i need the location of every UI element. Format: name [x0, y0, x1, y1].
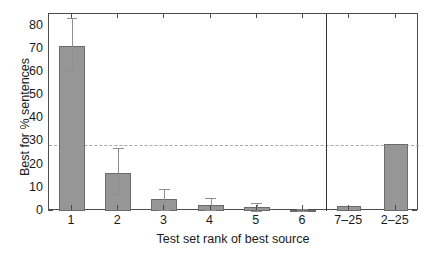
y-axis-tick-label: 10 — [17, 180, 43, 194]
error-bar-cap-lower — [67, 71, 78, 72]
x-axis-tick-mark — [256, 205, 257, 210]
reference-line — [49, 145, 419, 146]
error-bar-cap-lower — [113, 194, 124, 195]
x-axis-tick-label: 2–25 — [381, 213, 409, 227]
error-bar-cap-lower — [251, 211, 262, 212]
y-axis-tick-mark-right — [412, 210, 417, 211]
error-bar-cap-upper — [251, 203, 262, 204]
error-bar-cap-lower — [159, 210, 170, 211]
x-axis-tick-mark-top — [210, 13, 211, 18]
error-bar-cap-lower — [297, 211, 308, 212]
error-bar-cap-upper — [205, 198, 216, 199]
error-bar-cap-upper — [113, 148, 124, 149]
x-axis-tick-mark — [395, 205, 396, 210]
x-axis-tick-mark-top — [302, 13, 303, 18]
error-bar-line — [164, 189, 165, 210]
x-axis-tick-mark — [348, 205, 349, 210]
error-bar-line — [72, 18, 73, 71]
x-axis-tick-mark-top — [395, 13, 396, 18]
bar-chart-figure: Best for % sentences Test set rank of be… — [0, 0, 435, 256]
y-axis-tick-label: 20 — [17, 157, 43, 171]
y-axis-tick-label: 80 — [17, 18, 43, 32]
x-axis-tick-label: 6 — [298, 213, 305, 227]
x-axis-tick-mark — [117, 205, 118, 210]
y-axis-tick-label: 70 — [17, 41, 43, 55]
error-bar-line — [118, 148, 119, 194]
error-bar-line — [257, 203, 258, 210]
y-axis-tick-label: 0 — [17, 203, 43, 217]
error-bar-line — [211, 198, 212, 210]
y-axis-tick-label: 40 — [17, 110, 43, 124]
y-axis-tick-mark — [48, 210, 53, 211]
error-bar-cap-lower — [205, 210, 216, 211]
error-bar-cap-upper — [297, 209, 308, 210]
x-axis-tick-mark — [163, 205, 164, 210]
bar — [384, 144, 408, 211]
plot-area — [48, 13, 418, 210]
error-bar-cap-upper — [159, 189, 170, 190]
x-axis-tick-mark-top — [117, 13, 118, 18]
x-axis-tick-mark — [71, 205, 72, 210]
error-bar-cap-upper — [67, 18, 78, 19]
x-axis-tick-mark-top — [71, 13, 72, 18]
x-axis-tick-label: 4 — [206, 213, 213, 227]
y-axis-tick-label: 30 — [17, 133, 43, 147]
x-axis-tick-label: 1 — [68, 213, 75, 227]
x-axis-tick-label: 2 — [114, 213, 121, 227]
x-axis-tick-mark — [302, 205, 303, 210]
x-axis-title: Test set rank of best source — [48, 232, 418, 246]
panel-divider — [326, 14, 327, 211]
x-axis-tick-mark-top — [348, 13, 349, 18]
x-axis-tick-label: 7–25 — [334, 213, 362, 227]
x-axis-tick-label: 5 — [252, 213, 259, 227]
x-axis-tick-mark — [210, 205, 211, 210]
x-axis-tick-mark-top — [256, 13, 257, 18]
y-axis-tick-label: 60 — [17, 64, 43, 78]
x-axis-tick-label: 3 — [160, 213, 167, 227]
y-axis-tick-label: 50 — [17, 87, 43, 101]
x-axis-tick-mark-top — [163, 13, 164, 18]
